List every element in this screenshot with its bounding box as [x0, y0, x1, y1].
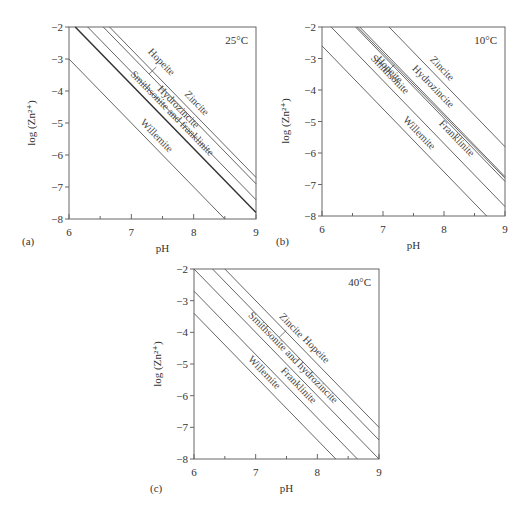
y-tick-label: −3 [51, 53, 63, 65]
series-line-zincite [110, 27, 256, 177]
temperature-label: 40°C [348, 276, 371, 288]
y-tick-label: −6 [304, 147, 316, 159]
y-tick-label: −2 [304, 21, 316, 33]
panel-caption: (a) [22, 235, 35, 248]
y-tick-label: −4 [51, 85, 63, 97]
y-tick-label: −4 [176, 326, 188, 338]
y-tick-label: −7 [51, 181, 63, 193]
y-tick-label: −5 [304, 116, 316, 128]
series-label: Zincite [277, 311, 306, 340]
x-tick-label: 8 [315, 466, 321, 478]
panel-caption: (c) [150, 482, 163, 495]
y-tick-label: −3 [304, 53, 316, 65]
x-tick-label: 9 [502, 223, 508, 235]
y-tick-label: −3 [176, 295, 188, 307]
series-line-hopeite [225, 269, 379, 427]
series-line-hydrozincite [88, 27, 256, 200]
x-tick-label: 6 [191, 466, 197, 478]
series-line-smithsonite-and-hydrozincite [194, 269, 379, 459]
temperature-label: 25°C [225, 34, 248, 46]
y-tick-label: −7 [176, 421, 188, 433]
series-line-smithsonite [331, 27, 505, 207]
series-line-franklinite [194, 291, 357, 459]
x-axis-label: pH [280, 482, 294, 494]
series-label: Franklinite [437, 118, 477, 159]
series-line-willemite [322, 46, 487, 216]
y-axis-label: log (Zn²⁺) [279, 98, 292, 144]
series-line-hopeite [103, 27, 256, 184]
y-tick-label: −8 [51, 213, 63, 225]
series-line-hydrozincite [360, 27, 505, 177]
y-axis-label: log (Zn²⁺) [25, 100, 38, 146]
y-tick-label: −7 [304, 179, 316, 191]
y-tick-label: −5 [176, 358, 188, 370]
y-axis-label: log (Zn²⁺) [151, 341, 164, 387]
temperature-label: 10°C [474, 34, 497, 46]
series-label: Hopeite [146, 46, 177, 78]
y-tick-label: −5 [51, 117, 63, 129]
y-tick-label: −4 [304, 84, 316, 96]
y-tick-label: −2 [176, 263, 188, 275]
y-tick-label: −8 [176, 453, 188, 465]
y-tick-label: −8 [304, 210, 316, 222]
x-tick-label: 9 [253, 226, 259, 238]
panel-caption: (b) [276, 235, 289, 248]
x-tick-label: 7 [253, 466, 259, 478]
x-tick-label: 8 [441, 223, 447, 235]
x-tick-label: 6 [66, 226, 72, 238]
y-tick-label: −6 [176, 390, 188, 402]
x-axis-label: pH [156, 242, 170, 254]
y-tick-label: −6 [51, 149, 63, 161]
x-tick-label: 9 [376, 466, 382, 478]
series-line-hopeite [357, 27, 505, 178]
series-line-smithsonite-and-franklinite [75, 27, 256, 213]
x-tick-label: 6 [319, 223, 325, 235]
series-line-zincite [213, 269, 380, 440]
x-tick-label: 7 [380, 223, 386, 235]
x-axis-label: pH [407, 239, 421, 251]
series-label: Hopeite [301, 334, 332, 366]
y-tick-label: −2 [51, 21, 63, 33]
x-tick-label: 8 [191, 226, 197, 238]
figure-canvas: 6789−2−3−4−5−6−7−8pHlog (Zn²⁺)(a)25°CWil… [0, 0, 529, 517]
x-tick-label: 7 [129, 226, 135, 238]
